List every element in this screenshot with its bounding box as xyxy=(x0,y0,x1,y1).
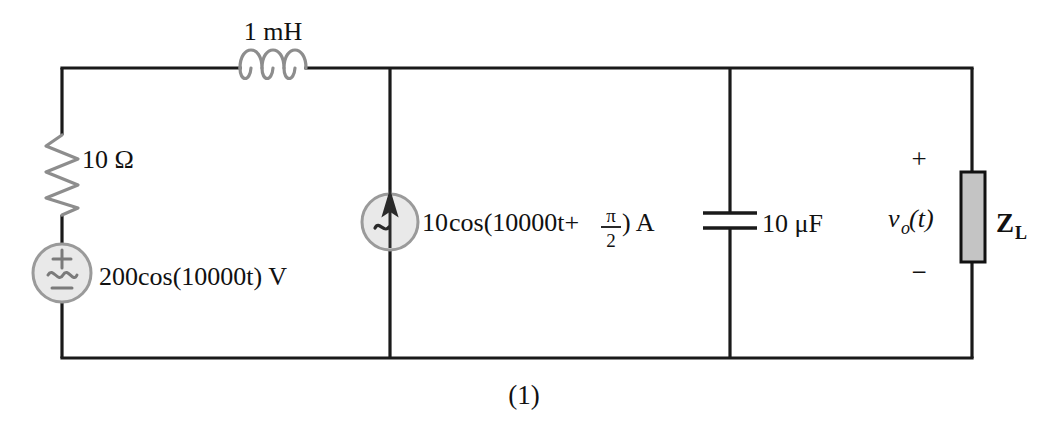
resistor-label: 10 Ω xyxy=(82,145,134,174)
output-voltage-label-group: v o (t) xyxy=(888,204,934,238)
output-voltage-minus: − xyxy=(911,257,926,287)
capacitor-label: 10 μF xyxy=(762,209,823,238)
capacitor-symbol xyxy=(703,213,757,228)
ac-current-source-symbol xyxy=(362,194,418,250)
circuit-schematic: 1 mH 10 Ω 200cos(10000t) V xyxy=(0,0,1057,438)
current-source-label-group: 10 cos(10000t+ π 2 ) A xyxy=(422,205,655,251)
resistor-symbol xyxy=(46,135,78,215)
inductor-label: 1 mH xyxy=(244,17,303,46)
current-source-suffix: ) A xyxy=(622,208,655,237)
load-impedance-label: Z xyxy=(996,208,1014,238)
current-source-amplitude: 10 xyxy=(422,208,448,237)
current-source-frac-numerator: π xyxy=(606,205,616,226)
current-source-cos: cos(10000t+ xyxy=(449,208,579,237)
circuit-diagram-figure: 1 mH 10 Ω 200cos(10000t) V xyxy=(0,0,1057,438)
load-impedance-subscript: L xyxy=(1015,223,1027,243)
figure-caption: (1) xyxy=(508,380,539,410)
load-impedance-box xyxy=(961,172,985,262)
current-source-frac-denominator: 2 xyxy=(606,230,616,251)
voltage-source-label: 200cos(10000t) V xyxy=(99,262,287,291)
inductor-symbol xyxy=(240,50,306,79)
load-impedance-label-group: Z L xyxy=(996,208,1027,243)
output-voltage-plus: + xyxy=(911,144,926,174)
output-voltage-symbol: v xyxy=(888,204,900,233)
output-voltage-argument: (t) xyxy=(909,204,934,233)
ac-voltage-source-symbol xyxy=(33,244,91,302)
